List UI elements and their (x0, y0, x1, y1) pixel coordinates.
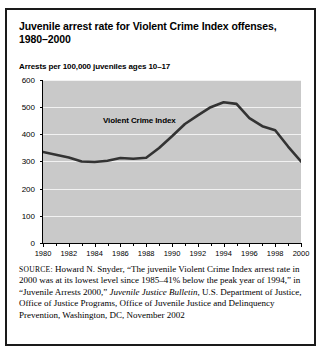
x-tick-1984 (95, 244, 96, 247)
y-axis-labels: 0 100 200 300 400 500 600 (7, 10, 41, 260)
x-tick-1994 (224, 244, 225, 247)
x-tick-label-1980: 1980 (35, 249, 52, 258)
x-tick-label-1992: 1992 (189, 249, 206, 258)
x-tick-1996 (249, 244, 250, 247)
x-minor-tick-1997 (262, 244, 263, 246)
x-tick-label-1996: 1996 (241, 249, 258, 258)
plot-background (43, 80, 301, 243)
x-tick-label-1982: 1982 (60, 249, 77, 258)
x-minor-tick-1999 (288, 244, 289, 246)
x-tick-1980 (43, 244, 44, 247)
x-minor-tick-1987 (133, 244, 134, 246)
y-tick-600 (40, 80, 43, 81)
x-minor-tick-1989 (159, 244, 160, 246)
y-tick-500 (40, 107, 43, 108)
y-tick-100 (40, 216, 43, 217)
source-note: SOURCE: Howard N. Snyder, “The juvenile … (19, 264, 307, 321)
y-tick-label-100: 100 (22, 212, 35, 221)
x-tick-1998 (275, 244, 276, 247)
figure-frame: Juvenile arrest rate for Violent Crime I… (5, 8, 316, 346)
y-tick-label-300: 300 (22, 157, 35, 166)
y-tick-200 (40, 189, 43, 190)
x-tick-label-1988: 1988 (138, 249, 155, 258)
x-tick-label-1994: 1994 (215, 249, 232, 258)
y-tick-label-500: 500 (22, 103, 35, 112)
x-tick-1992 (198, 244, 199, 247)
y-tick-label-600: 600 (22, 76, 35, 85)
x-minor-tick-1993 (211, 244, 212, 246)
y-tick-300 (40, 161, 43, 162)
x-tick-label-1984: 1984 (86, 249, 103, 258)
x-tick-label-2000: 2000 (293, 249, 310, 258)
x-tick-1986 (120, 244, 121, 247)
y-tick-label-0: 0 (31, 239, 35, 248)
x-tick-2000 (301, 244, 302, 247)
y-axis-line (42, 80, 43, 244)
series-inline-label: Violent Crime Index (103, 116, 176, 125)
chart-area: Arrests per 100,000 juveniles ages 10–17… (7, 10, 318, 260)
source-italic-1: Juvenile Justice Bulletin (109, 287, 197, 297)
x-minor-tick-1985 (108, 244, 109, 246)
y-tick-label-400: 400 (22, 130, 35, 139)
y-tick-label-200: 200 (22, 185, 35, 194)
x-tick-label-1998: 1998 (267, 249, 284, 258)
x-tick-label-1990: 1990 (164, 249, 181, 258)
x-minor-tick-1995 (237, 244, 238, 246)
y-tick-400 (40, 134, 43, 135)
y-axis-note: Arrests per 100,000 juveniles ages 10–17 (19, 62, 170, 71)
x-minor-tick-1983 (82, 244, 83, 246)
x-tick-1990 (172, 244, 173, 247)
x-tick-1988 (146, 244, 147, 247)
x-tick-1982 (69, 244, 70, 247)
series-line-violent-crime-index (43, 80, 301, 243)
x-minor-tick-1991 (185, 244, 186, 246)
source-label: SOURCE: (19, 265, 53, 274)
x-minor-tick-1981 (56, 244, 57, 246)
x-tick-label-1986: 1986 (112, 249, 129, 258)
